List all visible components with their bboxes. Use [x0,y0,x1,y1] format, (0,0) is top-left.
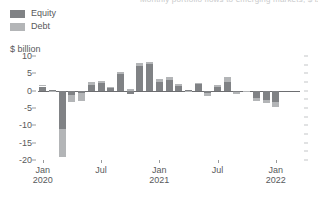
bar-group [117,56,124,160]
plot-area [38,56,300,160]
bar-segment-equity [214,87,221,90]
x-axis-tick [276,160,277,163]
bar-group [68,56,75,160]
y-axis-right-tick [304,90,308,91]
y-axis-right-tick [304,142,308,143]
bar-segment-debt [49,91,56,92]
bar-group [253,56,260,160]
x-label-month: Jan [152,165,167,175]
bar-segment-equity [88,85,95,91]
x-label-year: 2021 [149,175,169,185]
bar-segment-debt [107,87,114,88]
bar-segment-equity [136,66,143,91]
bar-segment-debt [59,129,66,157]
y-axis-tick [32,108,36,109]
x-axis-tick-label: Jul [95,165,107,175]
x-label-year: 2022 [266,175,286,185]
y-axis-tick [32,56,36,57]
bar-group [88,56,95,160]
x-label-year: 2020 [33,175,53,185]
bar-segment-equity [107,88,114,91]
bar-segment-debt [146,62,153,64]
bar-group [166,56,173,160]
x-axis: Jan2020JulJan2021JulJan2022 [38,160,300,200]
bar-segment-debt [175,84,182,86]
bar-segment-debt [253,98,260,102]
bar-segment-equity [195,84,202,90]
bar-segment-equity [156,82,163,91]
x-label-month: Jul [95,165,107,175]
bar-segment-debt [136,63,143,65]
y-axis-right-tick [304,82,308,83]
bar-segment-debt [166,77,173,80]
x-axis-tick [218,160,219,163]
bar-segment-equity [98,83,105,91]
x-axis-tick-label: Jan2020 [33,165,53,185]
bar-segment-debt [243,91,250,92]
x-axis-tick-label: Jan2022 [266,165,286,185]
y-axis-right-tick [304,99,308,100]
bar-group [146,56,153,160]
bar-segment-debt [78,93,85,101]
y-axis-tick-label: -10 [19,120,32,130]
y-axis-tick [32,73,36,74]
bar-group [185,56,192,160]
bar-segment-equity [263,91,270,100]
x-label-month: Jan [268,165,283,175]
bar-group [272,56,279,160]
bar-group [204,56,211,160]
bar-group [243,56,250,160]
y-axis-right-tick [304,108,308,109]
y-axis-right-tick [304,64,308,65]
y-axis-tick-label: -20 [19,155,32,165]
bar-segment-equity [175,86,182,91]
x-label-month: Jul [212,165,224,175]
bar-segment-equity [39,87,46,91]
y-axis-tick [32,160,36,161]
bar-group [263,56,270,160]
clipped-title-text: Monthly portfolio flows to emerging mark… [140,0,318,4]
bar-group [292,56,299,160]
bar-segment-debt [156,79,163,82]
bar-segment-debt [214,85,221,87]
bar-segment-debt [272,102,279,106]
bar-group [59,56,66,160]
y-axis-right-tick [304,56,308,57]
bar-segment-debt [117,72,124,74]
bar-group [224,56,231,160]
x-axis-tick [43,160,44,163]
bar-group [175,56,182,160]
y-axis-tick-label: -5 [24,103,32,113]
bar-segment-debt [233,92,240,93]
bar-segment-equity [59,91,66,129]
bar-segment-debt [195,83,202,84]
bar-segment-equity [253,91,260,98]
y-axis-right-tick [304,151,308,152]
bar-segment-debt [88,82,95,85]
bar-segment-debt [39,85,46,86]
bar-segment-equity [117,74,124,91]
y-axis-tick-label: 10 [22,51,32,61]
x-axis-tick [101,160,102,163]
bar-segment-debt [68,95,75,102]
bar-group [98,56,105,160]
clipped-title: Monthly portfolio flows to emerging mark… [0,0,318,6]
bar-series-group [38,56,300,160]
bar-segment-debt [263,100,270,103]
bar-group [282,56,289,160]
bar-group [39,56,46,160]
bar-segment-equity [224,82,231,90]
y-axis-right-tick [304,116,308,117]
bar-group [156,56,163,160]
bar-segment-equity [272,91,279,103]
bar-segment-debt [224,77,231,82]
bar-group [136,56,143,160]
bar-segment-equity [127,91,134,94]
y-axis-tick [32,142,36,143]
bar-group [78,56,85,160]
bar-segment-equity [146,64,153,91]
x-axis-tick-label: Jul [212,165,224,175]
y-axis-tick-label: -15 [19,138,32,148]
bar-group [127,56,134,160]
y-axis-right-tick [304,160,308,161]
